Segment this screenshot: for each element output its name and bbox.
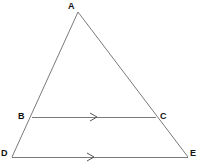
- segment-ad: [12, 12, 78, 157]
- geometry-figure-canvas: A B C D E: [0, 0, 199, 164]
- vertex-label-e: E: [190, 148, 196, 158]
- segment-ae: [78, 12, 188, 157]
- vertex-label-d: D: [1, 148, 8, 158]
- geometry-diagram-svg: [0, 0, 199, 164]
- vertex-label-b: B: [18, 111, 25, 121]
- vertex-label-a: A: [68, 1, 75, 11]
- vertex-label-c: C: [160, 111, 167, 121]
